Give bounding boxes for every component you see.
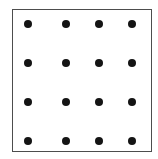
grid-dot bbox=[24, 59, 32, 67]
grid-dot bbox=[128, 20, 136, 28]
grid-dot bbox=[62, 59, 70, 67]
grid-dot bbox=[24, 98, 32, 106]
grid-dot bbox=[24, 20, 32, 28]
figure-canvas bbox=[0, 0, 158, 159]
grid-dot bbox=[95, 20, 103, 28]
grid-dot bbox=[62, 20, 70, 28]
grid-dot bbox=[128, 59, 136, 67]
grid-dot bbox=[128, 137, 136, 145]
grid-dot bbox=[24, 137, 32, 145]
square-border bbox=[12, 9, 152, 152]
grid-dot bbox=[62, 137, 70, 145]
grid-dot bbox=[95, 59, 103, 67]
grid-dot bbox=[95, 98, 103, 106]
grid-dot bbox=[128, 98, 136, 106]
grid-dot bbox=[62, 98, 70, 106]
grid-dot bbox=[95, 137, 103, 145]
